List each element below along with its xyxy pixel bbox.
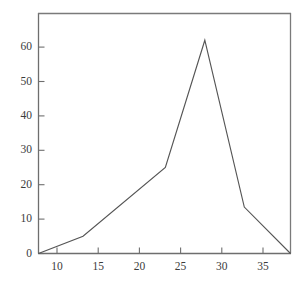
data-series-line	[39, 40, 291, 253]
y-tick-label-0: 0	[8, 248, 32, 260]
x-tick-label-20: 20	[134, 261, 146, 273]
x-tick-label-10: 10	[51, 261, 63, 273]
axis-frame	[38, 13, 291, 254]
x-tick-label-15: 15	[92, 261, 104, 273]
x-tick-label-35: 35	[257, 261, 269, 273]
chart-plot-area	[0, 0, 307, 283]
x-tick-label-30: 30	[216, 261, 228, 273]
y-tick-label-30: 30	[8, 145, 32, 157]
x-axis-ticks	[57, 248, 263, 254]
y-tick-label-20: 20	[8, 179, 32, 191]
y-tick-label-40: 40	[8, 110, 32, 122]
y-axis-ticks	[39, 47, 45, 253]
y-tick-label-50: 50	[8, 76, 32, 88]
y-tick-label-10: 10	[8, 213, 32, 225]
y-tick-label-60: 60	[8, 41, 32, 53]
x-tick-label-25: 25	[175, 261, 187, 273]
line-chart-figure: 0 10 20 30 40 50 60 10 15 20 25 30 35	[0, 0, 307, 283]
